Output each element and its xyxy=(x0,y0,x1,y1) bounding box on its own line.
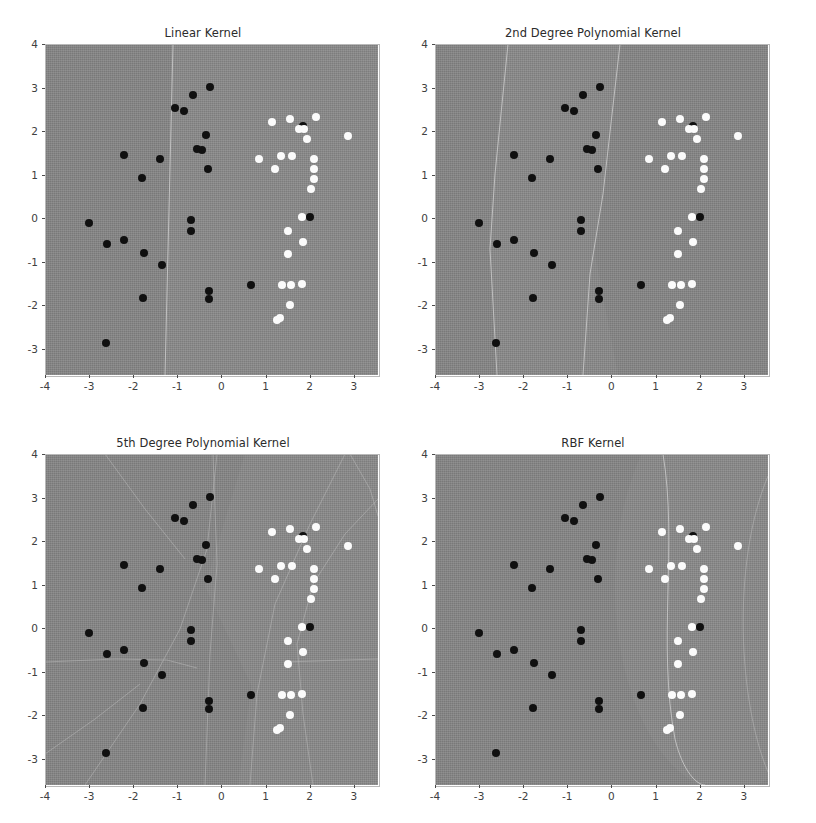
subplot-poly5-kernel: 5th Degree Polynomial Kernel -4-3-2-1012… xyxy=(8,435,398,810)
data-point xyxy=(677,281,685,289)
y-tick-label: 2 xyxy=(31,535,38,547)
y-tick xyxy=(42,44,45,45)
x-tick-label: -3 xyxy=(84,380,94,392)
data-point xyxy=(85,219,93,227)
x-tick xyxy=(310,785,311,788)
data-point xyxy=(697,595,705,603)
y-tick xyxy=(42,175,45,176)
data-point xyxy=(688,623,696,631)
data-point xyxy=(180,107,188,115)
y-tick-label: 1 xyxy=(31,169,38,181)
y-tick-label: -1 xyxy=(28,256,38,268)
y-tick xyxy=(432,759,435,760)
data-point xyxy=(158,261,166,269)
y-tick xyxy=(432,454,435,455)
data-point xyxy=(700,585,708,593)
x-tick-label: 2 xyxy=(306,380,313,392)
y-tick xyxy=(42,262,45,263)
data-point xyxy=(700,565,708,573)
x-tick xyxy=(656,375,657,378)
y-tick-label: 3 xyxy=(31,492,38,504)
y-tick xyxy=(432,88,435,89)
y-tick xyxy=(42,305,45,306)
y-tick xyxy=(432,498,435,499)
y-tick-label: 0 xyxy=(31,212,38,224)
x-tick xyxy=(310,375,311,378)
x-tick-label: -1 xyxy=(172,380,182,392)
x-tick-label: -4 xyxy=(40,790,50,802)
y-tick xyxy=(42,88,45,89)
y-tick-label: -3 xyxy=(28,753,38,765)
data-point xyxy=(693,135,701,143)
data-point xyxy=(530,659,538,667)
data-point xyxy=(688,213,696,221)
y-tick xyxy=(432,131,435,132)
y-tick xyxy=(432,218,435,219)
data-point xyxy=(700,155,708,163)
x-tick xyxy=(89,375,90,378)
x-tick-label: 1 xyxy=(652,790,659,802)
data-point xyxy=(588,146,596,154)
x-tick xyxy=(221,785,222,788)
x-tick-label: 0 xyxy=(218,790,225,802)
x-tick-label: 2 xyxy=(696,790,703,802)
decision-boundary-linear xyxy=(45,44,378,375)
data-point xyxy=(180,517,188,525)
data-point xyxy=(510,151,518,159)
y-tick xyxy=(42,349,45,350)
x-tick-label: -2 xyxy=(128,380,138,392)
y-tick-label: 1 xyxy=(421,579,428,591)
data-point xyxy=(594,165,602,173)
x-tick xyxy=(656,785,657,788)
data-point xyxy=(579,91,587,99)
x-tick xyxy=(700,785,701,788)
data-point xyxy=(570,517,578,525)
data-point xyxy=(645,155,653,163)
data-point xyxy=(139,294,147,302)
data-point xyxy=(510,561,518,569)
x-tick-label: -2 xyxy=(518,380,528,392)
x-tick-label: -3 xyxy=(84,790,94,802)
data-point xyxy=(697,185,705,193)
data-point xyxy=(700,175,708,183)
x-tick xyxy=(133,375,134,378)
y-tick xyxy=(42,454,45,455)
plot-area-poly2 xyxy=(435,44,768,375)
data-point xyxy=(696,623,704,631)
data-point xyxy=(189,501,197,509)
data-point xyxy=(187,637,195,645)
data-point xyxy=(658,118,666,126)
data-point xyxy=(286,115,294,123)
x-tick xyxy=(611,375,612,378)
data-point xyxy=(299,238,307,246)
x-tick xyxy=(567,375,568,378)
data-point xyxy=(198,146,206,154)
data-point xyxy=(198,556,206,564)
data-point xyxy=(310,175,318,183)
y-tick xyxy=(42,585,45,586)
data-point xyxy=(592,131,600,139)
data-point xyxy=(548,671,556,679)
data-point xyxy=(577,637,585,645)
data-point xyxy=(268,118,276,126)
plot-area-linear xyxy=(45,44,378,375)
data-point xyxy=(287,691,295,699)
data-point xyxy=(189,91,197,99)
data-point xyxy=(577,216,585,224)
data-point xyxy=(588,556,596,564)
x-tick-label: -1 xyxy=(562,790,572,802)
decision-boundary-poly5 xyxy=(45,454,378,785)
y-tick-label: 4 xyxy=(421,38,428,50)
data-point xyxy=(310,565,318,573)
x-tick-label: 3 xyxy=(740,790,747,802)
data-point xyxy=(139,704,147,712)
subplot-rbf-kernel: RBF Kernel -4-3-2-1012343210-1-2-3 xyxy=(398,435,788,810)
data-point xyxy=(579,501,587,509)
data-point xyxy=(307,185,315,193)
y-tick xyxy=(42,715,45,716)
plot-area-poly5 xyxy=(45,454,378,785)
x-tick-label: 3 xyxy=(740,380,747,392)
x-tick xyxy=(177,785,178,788)
data-point xyxy=(561,514,569,522)
x-tick xyxy=(221,375,222,378)
